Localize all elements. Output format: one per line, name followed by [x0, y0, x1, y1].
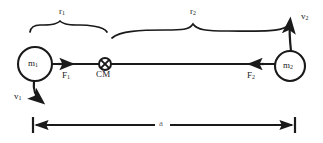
separation-dimension — [33, 117, 295, 133]
mass-2-label: m2 — [283, 61, 293, 71]
center-of-mass-label: CM — [96, 70, 110, 79]
velocity-1-label: v1 — [14, 92, 21, 102]
radius-2-brace — [112, 24, 286, 38]
separation-dimension-label: a — [159, 119, 163, 128]
force-2-label: F2 — [247, 71, 255, 81]
velocity-2-arrow — [290, 22, 291, 51]
radius-2-label: r2 — [190, 7, 196, 17]
velocity-2-label: v2 — [301, 12, 308, 22]
radius-1-brace — [30, 21, 107, 32]
velocity-1-arrow — [34, 81, 41, 101]
mass-1-label: m1 — [28, 59, 38, 69]
force-1-label: F1 — [62, 71, 70, 81]
figure-canvas: m1 m2 CM F1 F2 v1 v2 r1 r2 a — [0, 0, 323, 143]
radius-1-label: r1 — [59, 7, 65, 17]
